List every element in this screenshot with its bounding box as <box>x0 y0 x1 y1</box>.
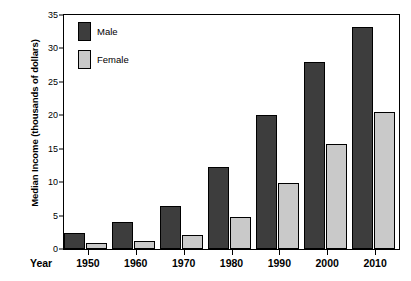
bar-1980-female <box>230 217 251 249</box>
legend-item-female: Female <box>78 50 129 69</box>
y-axis-tick-label: 10 <box>36 178 58 187</box>
y-axis-tick-label: 25 <box>36 77 58 86</box>
y-axis-tick-labels: 05101520253035 <box>36 14 58 250</box>
y-axis-tick-mark <box>59 215 63 216</box>
y-axis-tick-mark <box>59 148 63 149</box>
bar-1990-female <box>278 183 299 249</box>
bar-1950-male <box>64 233 85 249</box>
y-axis-tick-label: 30 <box>36 44 58 53</box>
legend-label-male: Male <box>97 27 118 37</box>
y-axis-tick-mark <box>59 81 63 82</box>
y-axis-tick-mark <box>59 182 63 183</box>
y-axis-tick-label: 0 <box>36 245 58 254</box>
legend-swatch-male-icon <box>78 22 91 41</box>
x-axis-tick-mark <box>88 250 89 255</box>
x-axis-tick-mark <box>279 250 280 255</box>
y-axis-tick-label: 5 <box>36 211 58 220</box>
bar-2010-female <box>374 112 395 249</box>
x-axis-tick-mark <box>375 250 376 255</box>
bar-1960-male <box>112 222 133 249</box>
y-axis-tick-label: 20 <box>36 111 58 120</box>
x-axis-title: Year <box>30 257 52 270</box>
x-axis-tick-mark <box>232 250 233 255</box>
bar-2000-female <box>326 144 347 249</box>
y-axis-tick-mark <box>59 115 63 116</box>
legend-item-male: Male <box>78 22 129 41</box>
y-axis-tick-mark <box>59 249 63 250</box>
legend-label-female: Female <box>97 55 129 65</box>
bar-2010-male <box>352 27 373 249</box>
bar-1970-male <box>160 206 181 249</box>
x-axis-tick-mark <box>327 250 328 255</box>
y-axis-tick-mark <box>59 48 63 49</box>
x-axis-tick-label: 2010 <box>345 257 405 270</box>
chart-legend: Male Female <box>78 22 129 78</box>
bar-1950-female <box>86 243 107 249</box>
x-axis-tick-mark <box>136 250 137 255</box>
bar-2000-male <box>304 62 325 249</box>
bar-chart-figure: Median Income (thousands of dollars) 051… <box>0 0 411 281</box>
legend-swatch-female-icon <box>78 50 91 69</box>
y-axis-tick-mark <box>59 15 63 16</box>
x-axis-tick-mark <box>184 250 185 255</box>
y-axis-tick-label: 15 <box>36 144 58 153</box>
y-axis-tick-label: 35 <box>36 11 58 20</box>
bar-1980-male <box>208 167 229 249</box>
bar-1960-female <box>134 241 155 249</box>
bar-1970-female <box>182 235 203 249</box>
bar-1990-male <box>256 115 277 249</box>
